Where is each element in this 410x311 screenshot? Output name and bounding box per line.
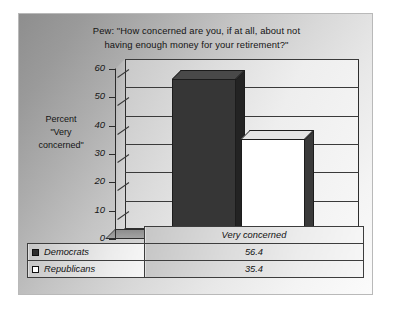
plot-left-wall (115, 59, 125, 239)
table-row: Republicans 35.4 (28, 261, 364, 278)
legend-item-democrats[interactable]: Democrats (28, 244, 145, 261)
tick-mark-10 (109, 211, 115, 212)
tick-mark-40 (109, 126, 115, 127)
tick-label-50: 50 (79, 90, 105, 101)
legend-label-democrats: Democrats (44, 247, 89, 257)
tick-label-20: 20 (79, 175, 105, 186)
bar-republicans[interactable] (241, 139, 305, 239)
chart-title-line-2: having enough money for your retirement?… (29, 38, 364, 52)
bar-republicans-side-face (305, 130, 314, 239)
bar-democrats-top-face (172, 70, 245, 79)
tick-mark-30 (109, 154, 115, 155)
table-corner-cell (28, 227, 145, 244)
legend-label-republicans: Republicans (44, 264, 95, 274)
chart-title-line-1: Pew: "How concerned are you, if at all, … (29, 24, 364, 38)
plot-area: 60 50 40 30 20 10 0 (101, 59, 367, 251)
bar-democrats-front-face (172, 79, 236, 239)
gridline-60 (125, 59, 359, 60)
tick-label-30: 30 (79, 147, 105, 158)
data-table: Very concerned Democrats 56.4 Republican… (27, 226, 364, 278)
tick-label-40: 40 (79, 119, 105, 130)
tick-mark-50 (109, 97, 115, 98)
y-axis-line (115, 69, 116, 240)
tick-mark-20 (109, 182, 115, 183)
tick-mark-60 (109, 69, 115, 70)
legend-swatch-republicans-icon (32, 266, 39, 273)
tick-label-10: 10 (79, 204, 105, 215)
table-row: Democrats 56.4 (28, 244, 364, 261)
value-republicans: 35.4 (145, 261, 364, 278)
legend-swatch-democrats-icon (32, 249, 39, 256)
table-category-header: Very concerned (145, 227, 364, 244)
bar-republicans-front-face (241, 139, 305, 239)
bar-republicans-top-face (241, 130, 314, 139)
chart-title: Pew: "How concerned are you, if at all, … (29, 24, 364, 51)
bar-democrats[interactable] (172, 79, 236, 239)
tick-label-60: 60 (79, 62, 105, 73)
chart-frame: Pew: "How concerned are you, if at all, … (18, 13, 373, 295)
legend-item-republicans[interactable]: Republicans (28, 261, 145, 278)
table-header-row: Very concerned (28, 227, 364, 244)
value-democrats: 56.4 (145, 244, 364, 261)
